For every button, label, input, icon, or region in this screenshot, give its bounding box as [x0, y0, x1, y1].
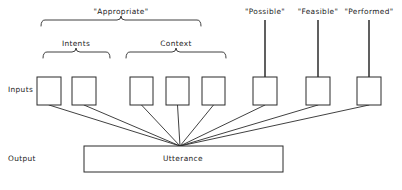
feasible-box	[306, 77, 330, 105]
stem-lines-group	[265, 20, 369, 77]
diagram-canvas: Utterance Inputs Output "Appropriate" In…	[0, 0, 402, 190]
brace-appropriate	[41, 16, 201, 26]
fan-lines-group	[49, 105, 369, 146]
diagram-svg: Utterance Inputs Output "Appropriate" In…	[0, 0, 402, 190]
intent-box-2	[72, 77, 96, 105]
fan-line-intent-box-2	[84, 105, 180, 146]
context-box-3	[202, 77, 225, 105]
possible-box	[253, 77, 277, 105]
fan-line-possible-box	[180, 105, 265, 146]
row-label-inputs: Inputs	[8, 85, 33, 94]
brace-group	[41, 16, 226, 58]
utterance-label: Utterance	[163, 154, 203, 163]
stem-label-performed: "Performed"	[345, 7, 394, 16]
row-label-output: Output	[8, 154, 36, 163]
fan-line-feasible-box	[180, 105, 318, 146]
brace-label-intents: Intents	[62, 39, 90, 48]
input-boxes-group	[37, 77, 381, 105]
brace-label-context: Context	[160, 39, 191, 48]
brace-intents	[43, 48, 110, 58]
stem-label-possible: "Possible"	[245, 7, 285, 16]
stem-labels-group: "Possible""Feasible""Performed"	[245, 7, 393, 16]
performed-box	[357, 77, 381, 105]
fan-line-context-box-2	[178, 105, 181, 146]
brace-context	[126, 48, 226, 58]
brace-label-appropriate: "Appropriate"	[94, 7, 149, 16]
context-box-1	[130, 77, 153, 105]
intent-box-1	[37, 77, 61, 105]
sub-brace-labels-group: IntentsContext	[62, 39, 192, 48]
stem-label-feasible: "Feasible"	[298, 7, 338, 16]
context-box-2	[166, 77, 189, 105]
